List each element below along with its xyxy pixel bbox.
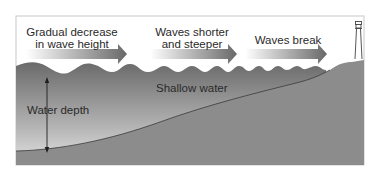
diagram-canvas: Gradual decrease in wave height Waves sh… (0, 0, 388, 180)
label-wave-height: in wave height (35, 38, 109, 50)
label-gradual-decrease: Gradual decrease (26, 26, 117, 38)
label-water-depth: Water depth (27, 104, 89, 116)
label-waves-break: Waves break (255, 34, 322, 46)
label-waves-shorter: Waves shorter (155, 26, 229, 38)
label-shallow-water: Shallow water (156, 82, 228, 94)
wave-diagram: Gradual decrease in wave height Waves sh… (0, 0, 388, 180)
label-and-steeper: and steeper (162, 38, 223, 50)
